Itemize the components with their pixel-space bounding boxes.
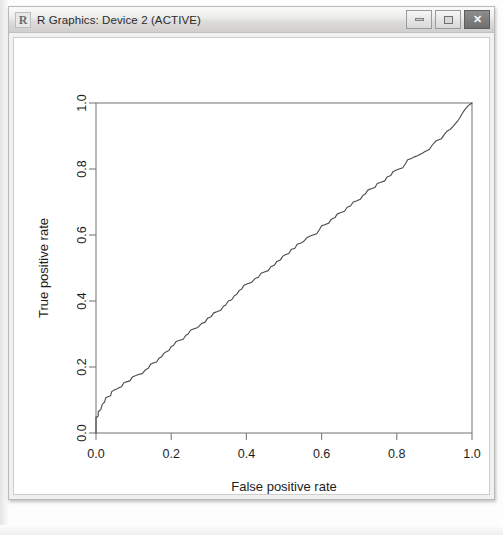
y-axis-ticks bbox=[89, 103, 96, 433]
maximize-icon bbox=[444, 16, 453, 24]
x-tick-label: 1.0 bbox=[463, 447, 480, 461]
r-graphics-window: R R Graphics: Device 2 (ACTIVE) ✕ bbox=[8, 6, 495, 500]
window-title: R Graphics: Device 2 (ACTIVE) bbox=[37, 14, 201, 26]
x-tick-label: 0.2 bbox=[163, 447, 180, 461]
x-tick-label: 0.6 bbox=[313, 447, 330, 461]
minimize-icon bbox=[415, 18, 424, 21]
x-tick-label: 0.0 bbox=[87, 447, 104, 461]
roc-curve-line bbox=[96, 103, 472, 433]
y-axis-title: True positive rate bbox=[36, 218, 51, 318]
y-axis-tick-labels: 0.00.20.40.60.81.0 bbox=[75, 94, 89, 441]
y-tick-label: 0.2 bbox=[75, 358, 89, 375]
y-tick-label: 0.0 bbox=[75, 424, 89, 441]
window-controls: ✕ bbox=[406, 10, 490, 29]
close-button[interactable]: ✕ bbox=[464, 10, 490, 29]
plot-box bbox=[96, 103, 472, 433]
x-axis-ticks bbox=[96, 433, 472, 440]
x-tick-label: 0.8 bbox=[388, 447, 405, 461]
y-tick-label: 0.8 bbox=[75, 160, 89, 177]
minimize-button[interactable] bbox=[406, 10, 432, 29]
scan-edge-shadow-left bbox=[0, 0, 8, 535]
maximize-button[interactable] bbox=[435, 10, 461, 29]
scan-edge-shadow-bottom bbox=[0, 525, 503, 535]
x-axis-tick-labels: 0.00.20.40.60.81.0 bbox=[87, 447, 480, 461]
r-logo-icon: R bbox=[15, 12, 31, 28]
r-logo-glyph: R bbox=[19, 14, 28, 26]
roc-plot: 0.00.20.40.60.81.0 0.00.20.40.60.81.0 Fa… bbox=[14, 38, 489, 494]
plot-box-frame bbox=[96, 103, 472, 433]
y-tick-label: 0.6 bbox=[75, 226, 89, 243]
x-axis-title: False positive rate bbox=[231, 479, 337, 494]
x-tick-label: 0.4 bbox=[238, 447, 255, 461]
window-titlebar[interactable]: R R Graphics: Device 2 (ACTIVE) ✕ bbox=[9, 7, 494, 33]
graphics-device-canvas: 0.00.20.40.60.81.0 0.00.20.40.60.81.0 Fa… bbox=[13, 37, 490, 495]
close-icon: ✕ bbox=[473, 14, 482, 25]
y-tick-label: 1.0 bbox=[75, 94, 89, 111]
screenshot-page: R R Graphics: Device 2 (ACTIVE) ✕ bbox=[0, 0, 503, 535]
y-tick-label: 0.4 bbox=[75, 292, 89, 309]
